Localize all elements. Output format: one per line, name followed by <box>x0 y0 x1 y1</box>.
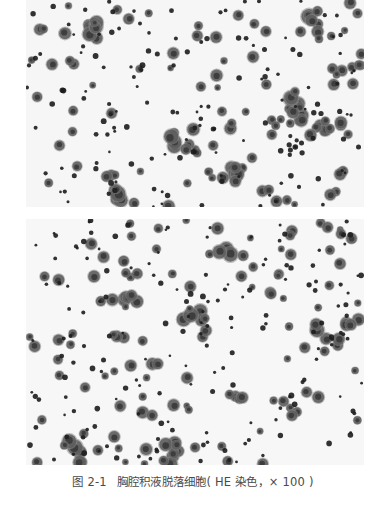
cell-field-bottom <box>26 219 364 465</box>
micrograph-top <box>26 0 364 207</box>
figure-caption: 图 2-1胸腔积液脱落细胞( HE 染色，× 100 ) <box>0 473 386 489</box>
figure-title: 胸腔积液脱落细胞 <box>117 475 207 489</box>
cell-field-top <box>26 0 364 207</box>
micrograph-bottom <box>26 219 364 465</box>
stain-note: ( HE 染色，× 100 ) <box>206 475 313 489</box>
figure-label: 图 2-1 <box>72 475 106 489</box>
